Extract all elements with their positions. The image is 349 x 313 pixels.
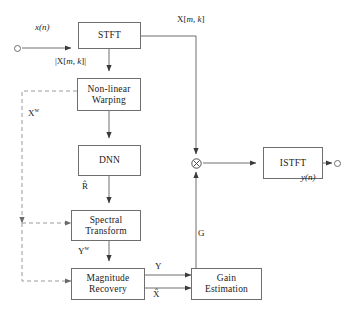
block-magnitude-recovery[interactable]: Magnitude Recovery xyxy=(71,268,145,300)
output-terminal xyxy=(334,160,341,167)
label-estimated-spectrum: X̂ xyxy=(153,289,160,299)
label-input-signal: x(n) xyxy=(35,22,50,32)
block-magnitude-label-line2: Recovery xyxy=(89,284,127,295)
input-terminal xyxy=(14,45,21,52)
block-non-linear-warping[interactable]: Non-linear Warping xyxy=(77,78,141,111)
block-spectral-label-line1: Spectral xyxy=(90,215,123,226)
block-stft-label: STFT xyxy=(98,30,121,41)
block-gain-estimation[interactable]: Gain Estimation xyxy=(191,268,262,300)
block-warping-label-line1: Non-linear xyxy=(87,84,130,95)
block-spectral-label-line2: Transform xyxy=(85,226,127,237)
label-gain: G xyxy=(198,228,205,238)
label-output-signal: y(n) xyxy=(301,172,316,182)
block-stft[interactable]: STFT xyxy=(78,22,141,49)
block-istft-label: ISTFT xyxy=(280,158,306,169)
wire-skip-to-magnitude xyxy=(22,223,71,281)
label-warped-output: Yw xyxy=(78,246,89,256)
label-dnn-output: R̂ xyxy=(82,181,88,191)
label-warped-input: Xw xyxy=(28,108,39,118)
wire-stft-to-multiplier xyxy=(141,36,196,154)
block-magnitude-label-line1: Magnitude xyxy=(87,273,130,284)
block-spectral-transform[interactable]: Spectral Transform xyxy=(71,210,141,241)
block-dnn-label: DNN xyxy=(99,155,120,166)
block-warping-label-line2: Warping xyxy=(92,95,126,106)
label-stft-output: X[m, k] xyxy=(177,14,205,24)
label-stft-magnitude: |X[m, k]| xyxy=(55,56,86,66)
block-gain-label-line1: Gain xyxy=(217,273,236,284)
block-gain-label-line2: Estimation xyxy=(205,284,248,295)
block-diagram-canvas: STFT Non-linear Warping DNN Spectral Tra… xyxy=(0,0,349,313)
block-dnn[interactable]: DNN xyxy=(78,145,141,176)
label-recovered-magnitude: Y xyxy=(155,261,162,271)
multiply-node xyxy=(191,158,202,169)
